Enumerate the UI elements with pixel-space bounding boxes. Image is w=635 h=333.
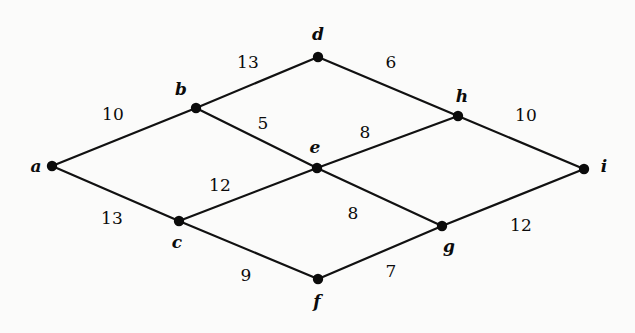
graph-node-h: [453, 111, 463, 121]
edge-weight-b-d: 13: [237, 54, 259, 71]
edge-weight-a-b: 10: [102, 106, 124, 123]
graph-node-e: [312, 163, 322, 173]
node-label-c: c: [172, 234, 182, 251]
node-label-d: d: [312, 26, 324, 43]
nodes-layer: [47, 52, 589, 284]
edge-weight-d-h: 6: [385, 54, 396, 71]
weighted-graph-figure: 101313512968871210abcdefghi: [0, 0, 635, 333]
graph-edge-c-e: [179, 168, 317, 221]
edge-weight-f-g: 7: [385, 263, 396, 280]
edge-weight-c-f: 9: [240, 267, 251, 284]
graph-node-i: [579, 164, 589, 174]
edge-weight-e-h: 8: [359, 124, 370, 141]
graph-node-f: [313, 274, 323, 284]
edge-weight-c-e: 12: [209, 177, 231, 194]
graph-node-d: [313, 52, 323, 62]
node-label-b: b: [175, 81, 187, 98]
graph-node-c: [174, 216, 184, 226]
edge-weight-h-i: 10: [515, 107, 537, 124]
edge-weight-e-g: 8: [347, 205, 358, 222]
edge-weight-g-i: 12: [510, 217, 532, 234]
graph-node-a: [47, 161, 57, 171]
edge-weight-a-c: 13: [101, 210, 123, 227]
node-label-g: g: [443, 238, 455, 255]
graph-edge-e-g: [317, 168, 442, 226]
node-label-f: f: [313, 293, 320, 310]
graph-edge-f-g: [318, 226, 442, 279]
graph-node-b: [191, 103, 201, 113]
edge-weight-b-e: 5: [257, 115, 268, 132]
graph-edge-e-h: [317, 116, 458, 168]
node-label-i: i: [601, 158, 607, 175]
node-label-a: a: [30, 158, 41, 175]
graph-canvas: [0, 0, 635, 333]
node-label-h: h: [456, 88, 468, 105]
node-label-e: e: [310, 139, 321, 156]
graph-node-g: [437, 221, 447, 231]
